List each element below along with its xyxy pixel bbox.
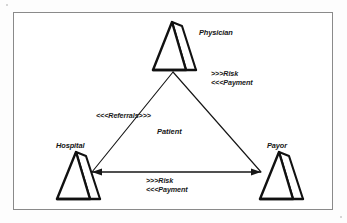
edge-label-payment-bottom: <<<Payment <box>146 186 188 195</box>
edge-label-hospital-payor: >>>Risk <<<Payment <box>146 177 188 194</box>
edge-line-hospital-payor <box>92 169 261 176</box>
node-label-hospital: Hospital <box>56 141 84 150</box>
edge-line-hospital-physician <box>92 72 173 172</box>
edge-label-physician-payor: >>>Risk <<<Payment <box>211 70 253 87</box>
scan-speck <box>340 216 342 218</box>
node-triangle-physician[interactable] <box>153 22 196 70</box>
scanned-page-canvas: Physician Hospital Payor Patient >>>Risk… <box>0 0 347 223</box>
node-label-physician: Physician <box>199 28 233 37</box>
node-label-payor: Payor <box>267 141 287 150</box>
scan-speck <box>6 4 8 6</box>
node-triangle-payor[interactable] <box>260 152 303 199</box>
node-triangle-hospital[interactable] <box>57 152 100 199</box>
edge-label-hospital-physician: <<<Referrals>>> <box>96 112 151 121</box>
edge-label-payment-right: <<<Payment <box>211 79 253 88</box>
center-label-patient: Patient <box>157 127 182 136</box>
